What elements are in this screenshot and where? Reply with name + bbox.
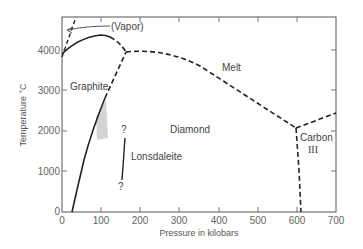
x-tick-label: 300: [171, 215, 188, 226]
diamond-melt-boundary: [126, 51, 296, 128]
x-tick-labels: 0 100 200 300 400 500 600 700: [59, 215, 345, 226]
label-graphite: Graphite: [70, 81, 109, 92]
question-mark-lower: ?: [118, 181, 124, 192]
melt-carbon-iii-boundary: [296, 113, 336, 128]
label-lonsdaleite: Lonsdaleite: [131, 151, 183, 162]
x-tick-label: 400: [211, 215, 228, 226]
y-tick-label: 4000: [38, 45, 61, 56]
x-tick-label: 700: [328, 215, 345, 226]
label-melt: Melt: [222, 62, 241, 73]
x-tick-label: 0: [59, 215, 65, 226]
carbon-phase-diagram: 0 100 200 300 400 500 600 700 0 1000 200…: [0, 0, 363, 249]
y-tick-label: 1000: [38, 166, 61, 177]
label-vapor: (Vapor): [111, 21, 144, 32]
label-carbon-iii: III: [308, 144, 318, 155]
y-tick-label: 0: [54, 206, 60, 217]
x-tick-label: 600: [289, 215, 306, 226]
graphite-melt-boundary: [62, 35, 110, 54]
x-tick-label: 200: [132, 215, 149, 226]
x-tick-label: 100: [93, 215, 110, 226]
x-axis-title: Pressure in kilobars: [159, 228, 239, 238]
graphite-melt-boundary-dashed: [110, 37, 126, 52]
vapor-arrow: [68, 26, 110, 30]
question-mark-upper: ?: [121, 124, 127, 135]
y-tick-label: 3000: [38, 85, 61, 96]
y-tick-labels: 0 1000 2000 3000 4000: [38, 45, 61, 217]
label-diamond: Diamond: [170, 124, 210, 135]
x-ticks: [101, 17, 297, 212]
y-axis-title: Temperature °C: [18, 83, 28, 147]
x-tick-label: 500: [250, 215, 267, 226]
lonsdaleite-line: [122, 138, 125, 180]
y-tick-label: 2000: [38, 125, 61, 136]
label-carbon: Carbon: [300, 132, 333, 143]
